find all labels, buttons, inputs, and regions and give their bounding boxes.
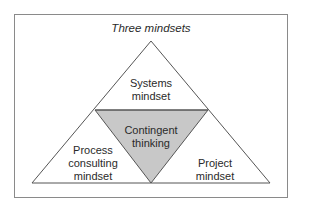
node-label-line: mindset — [130, 90, 172, 103]
node-systems-mindset: Systems mindset — [130, 77, 172, 103]
node-label-line: Process — [68, 144, 118, 157]
node-process-consulting-mindset: Process consulting mindset — [68, 144, 118, 183]
node-label-line: consulting — [68, 157, 118, 170]
node-label-line: mindset — [68, 170, 118, 183]
node-project-mindset: Project mindset — [196, 157, 235, 183]
node-label-line: Systems — [130, 77, 172, 90]
node-label-line: Project — [196, 157, 235, 170]
diagram-title: Three mindsets — [111, 22, 190, 35]
node-label-line: mindset — [196, 170, 235, 183]
node-label-line: thinking — [124, 137, 177, 150]
node-label-line: Contingent — [124, 124, 177, 137]
node-contingent-thinking: Contingent thinking — [124, 124, 177, 150]
